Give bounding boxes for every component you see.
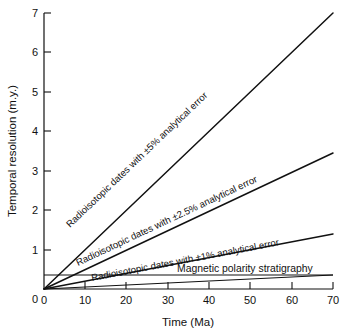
x-tick-label-70: 70 xyxy=(327,294,339,306)
x-tick-label-60: 60 xyxy=(286,294,298,306)
series-line-5pct xyxy=(44,13,333,289)
chart-figure: 7 6 5 4 3 2 1 0 0 10 20 30 40 50 60 xyxy=(0,0,347,336)
y-axis-ticks xyxy=(44,13,51,250)
series-label-magnetic-polarity: Magnetic polarity stratigraphy xyxy=(177,263,314,274)
y-axis-title: Temporal resolution (m.y.) xyxy=(6,85,18,217)
x-tick-label-20: 20 xyxy=(120,294,132,306)
y-tick-label-3: 3 xyxy=(32,165,38,177)
line-chart-canvas: 7 6 5 4 3 2 1 0 0 10 20 30 40 50 60 xyxy=(0,0,347,336)
x-tick-label-30: 30 xyxy=(162,294,174,306)
y-tick-label-6: 6 xyxy=(32,46,38,58)
y-tick-label-7: 7 xyxy=(32,7,38,19)
series-lines xyxy=(44,13,333,289)
series-line-magnetic-polarity xyxy=(44,275,333,289)
x-tick-label-40: 40 xyxy=(203,294,215,306)
x-tick-label-0: 0 xyxy=(41,294,47,306)
y-tick-label-0: 0 xyxy=(32,293,38,305)
y-tick-label-2: 2 xyxy=(32,204,38,216)
y-axis-tick-labels: 7 6 5 4 3 2 1 0 xyxy=(32,7,38,305)
x-tick-label-10: 10 xyxy=(79,294,91,306)
y-tick-label-1: 1 xyxy=(32,244,38,256)
y-tick-label-4: 4 xyxy=(32,125,38,137)
x-axis-tick-labels: 0 10 20 30 40 50 60 70 xyxy=(41,294,339,306)
x-axis-title: Time (Ma) xyxy=(162,316,214,328)
y-tick-label-5: 5 xyxy=(32,86,38,98)
x-tick-label-50: 50 xyxy=(244,294,256,306)
